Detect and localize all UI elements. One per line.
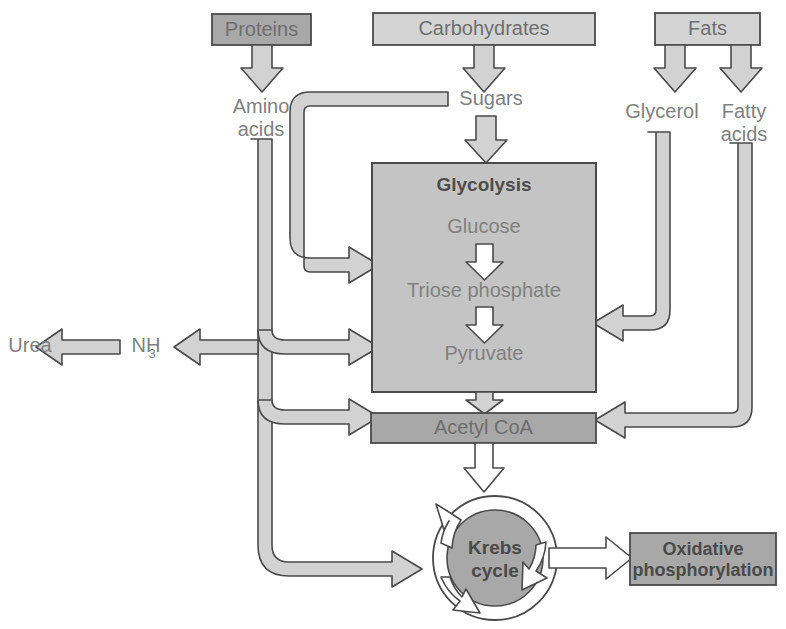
- carbohydrates-label: Carbohydrates: [418, 17, 549, 39]
- glycolysis-title: Glycolysis: [436, 174, 531, 195]
- ammonia-subscript: 3: [148, 346, 155, 361]
- amino-acids-label-line1: Amino: [233, 95, 290, 117]
- metabolism-diagram: Proteins Carbohydrates Fats Amino: [0, 0, 786, 629]
- proteins-box[interactable]: Proteins: [212, 14, 311, 45]
- amino-acid-branch-to-acetyl-coa: [258, 399, 379, 435]
- fats-label: Fats: [688, 17, 727, 39]
- glycolysis-box[interactable]: Glycolysis Glucose Triose phosphate Pyru…: [372, 163, 596, 392]
- glycolysis-step-triose-phosphate: Triose phosphate: [407, 279, 561, 301]
- fatty-acids-pipe: [595, 143, 752, 438]
- glycerol-label: Glycerol: [625, 100, 698, 122]
- arrow-fats-to-glycerol: [654, 45, 696, 92]
- ammonia-label-group: NH 3: [132, 334, 161, 361]
- proteins-label: Proteins: [225, 18, 298, 40]
- arrow-amino-acids-to-ammonia: [174, 329, 258, 365]
- sugars-label: Sugars: [459, 87, 522, 109]
- acetyl-coa-label: Acetyl CoA: [434, 416, 534, 438]
- krebs-cycle[interactable]: Krebs cycle: [433, 496, 557, 620]
- amino-acids-label-line2: acids: [238, 118, 285, 140]
- arrow-pyruvate-to-acetyl-coa: [466, 392, 503, 414]
- glycerol-label-group: Glycerol: [625, 100, 698, 122]
- fatty-acids-label-line1: Fatty: [722, 100, 766, 122]
- glycerol-pipe: [593, 132, 670, 341]
- arrow-fats-to-fatty-acids: [720, 45, 762, 92]
- arrow-proteins-to-amino-acids: [241, 45, 283, 92]
- ammonia-label: NH: [132, 334, 161, 356]
- oxphos-label-line2: phosphorylation: [633, 560, 774, 580]
- urea-label: Urea: [8, 334, 52, 356]
- oxphos-label-line1: Oxidative: [662, 539, 743, 559]
- fatty-acids-label-group: Fatty acids: [721, 100, 768, 145]
- krebs-label-line2: cycle: [471, 560, 519, 581]
- fatty-acids-label-line2: acids: [721, 123, 768, 145]
- arrow-sugars-to-glycolysis: [465, 116, 507, 163]
- carbohydrates-box[interactable]: Carbohydrates: [373, 13, 595, 45]
- glycolysis-step-glucose: Glucose: [447, 215, 520, 237]
- fats-box[interactable]: Fats: [655, 13, 760, 45]
- urea-label-group: Urea: [8, 334, 52, 356]
- diagram-canvas: Proteins Carbohydrates Fats Amino: [0, 0, 786, 629]
- sugars-label-group: Sugars: [459, 87, 522, 109]
- arrow-acetyl-coa-to-krebs: [464, 443, 504, 492]
- glycolysis-step-pyruvate: Pyruvate: [445, 342, 524, 364]
- arrow-krebs-to-oxphos: [549, 537, 632, 579]
- amino-acid-branch-to-glycolysis: [258, 329, 379, 365]
- arrow-carbohydrates-to-sugars: [463, 45, 505, 92]
- acetyl-coa-box[interactable]: Acetyl CoA: [371, 413, 596, 443]
- krebs-label-line1: Krebs: [468, 537, 522, 558]
- oxidative-phosphorylation-box[interactable]: Oxidative phosphorylation: [630, 533, 776, 585]
- amino-acids-label-group: Amino acids: [233, 95, 290, 140]
